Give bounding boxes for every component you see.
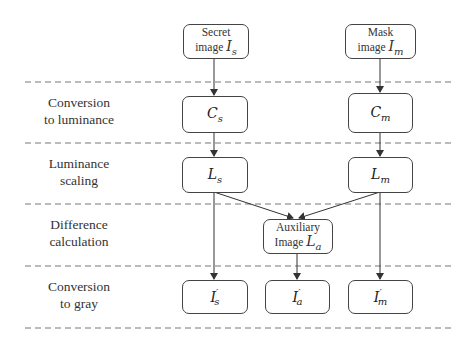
secret-image-node: Secret image Is bbox=[183, 24, 249, 59]
l-m-node: Lm bbox=[348, 157, 413, 193]
stage-label-line: to gray bbox=[14, 295, 144, 312]
i-prime-a-node: I′a bbox=[265, 280, 330, 314]
node-text: Auxiliary bbox=[276, 220, 320, 234]
math-subscript: m bbox=[380, 173, 389, 184]
math-subscript: s bbox=[218, 113, 223, 124]
math-symbol: L bbox=[371, 166, 380, 182]
math-subscript: s bbox=[217, 173, 222, 184]
node-text: Image bbox=[275, 236, 304, 248]
stage-label-line: Conversion bbox=[14, 278, 144, 295]
l-s-node: Ls bbox=[182, 157, 248, 193]
stage-label-line: Conversion bbox=[14, 94, 144, 111]
stage-label-line: to luminance bbox=[14, 111, 144, 128]
c-s-node: Cs bbox=[182, 96, 248, 133]
math-subscript: m bbox=[394, 45, 403, 56]
math-symbol: C bbox=[370, 104, 381, 120]
stage-label-line: Difference bbox=[14, 216, 144, 233]
stage-label-line: scaling bbox=[14, 172, 144, 189]
node-text-row: Image La bbox=[275, 234, 322, 254]
c-m-node: Cm bbox=[348, 93, 413, 133]
math-subscript: s bbox=[214, 296, 219, 307]
stage-label-difference-calculation: Difference calculation bbox=[14, 216, 144, 250]
math-subscript: a bbox=[296, 296, 302, 307]
stage-label-line: calculation bbox=[14, 233, 144, 250]
math-subscript: s bbox=[232, 45, 237, 56]
node-text: Secret bbox=[202, 25, 231, 39]
node-text: image bbox=[195, 41, 223, 53]
math-subscript: m bbox=[378, 296, 387, 307]
auxiliary-image-node: Auxiliary Image La bbox=[263, 219, 333, 254]
node-text-row: image Is bbox=[195, 39, 237, 59]
stage-label-line: Luminance bbox=[14, 155, 144, 172]
mask-image-node: Mask image Im bbox=[345, 24, 416, 59]
i-prime-m-node: I′m bbox=[348, 280, 413, 314]
math-subscript: m bbox=[381, 111, 390, 122]
stage-label-conversion-to-luminance: Conversion to luminance bbox=[14, 94, 144, 128]
stage-label-conversion-to-gray: Conversion to gray bbox=[14, 278, 144, 312]
math-symbol: C bbox=[207, 105, 218, 121]
math-symbol: L bbox=[208, 166, 217, 182]
stage-label-luminance-scaling: Luminance scaling bbox=[14, 155, 144, 189]
i-prime-s-node: I′s bbox=[182, 280, 248, 314]
node-text: image bbox=[358, 41, 386, 53]
math-subscript: a bbox=[315, 240, 321, 251]
node-text-row: image Im bbox=[358, 39, 404, 59]
node-text: Mask bbox=[368, 25, 394, 39]
